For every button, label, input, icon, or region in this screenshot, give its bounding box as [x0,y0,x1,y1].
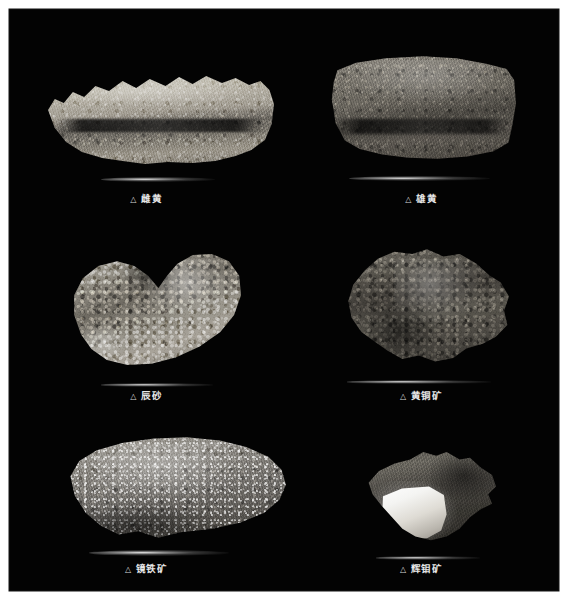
specimen-image-1[interactable] [48,66,274,166]
specimen-caption-6: △辉钼矿 [284,563,559,575]
specimen-shadow-band [358,301,440,355]
specimen-label-5: 镜铁矿 [136,563,168,574]
specimen-highlight [349,60,494,101]
specimen-caption-5: △镜铁矿 [9,563,284,575]
specimen-image-3[interactable] [69,249,241,371]
specimen-reflection-3 [101,383,213,387]
specimen-cell-2[interactable]: △雄黄 [284,9,559,209]
specimen-shadow-band [334,119,513,134]
specimen-highlight [76,325,128,362]
specimen-image-5[interactable] [66,433,286,541]
specimen-cell-4[interactable]: △黄铜矿 [284,200,559,400]
specimen-reflection-4 [347,380,491,384]
specimen-image-6[interactable] [366,450,496,546]
specimen-body [366,450,496,546]
specimen-shadow-band [57,119,265,132]
specimen-cell-6[interactable]: △辉钼矿 [284,391,559,591]
specimen-highlight [148,259,231,318]
specimen-image-2[interactable] [330,54,516,162]
triangle-marker-icon: △ [400,564,407,575]
specimen-reflection-1 [101,177,215,182]
plate-page: △雌黄 △雄黄 [0,0,570,604]
specimen-label-6: 辉钼矿 [411,563,443,574]
specimen-body [48,66,274,166]
specimen-cell-1[interactable]: △雌黄 [9,9,284,209]
specimen-reflection-2 [349,176,490,181]
specimen-shadow-band [66,504,220,541]
specimen-metallic-face [379,486,447,540]
specimen-body [330,54,516,162]
specimen-highlight [66,78,247,108]
triangle-marker-icon: △ [125,564,132,575]
specimen-cell-5[interactable]: △镜铁矿 [9,391,284,591]
specimen-image-4[interactable] [345,247,509,365]
specimen-body [345,247,509,365]
plate-background: △雌黄 △雄黄 [9,9,559,591]
specimen-body [66,433,286,541]
specimen-highlight [97,444,233,498]
specimen-reflection-6 [376,556,480,560]
specimen-reflection-5 [89,550,229,556]
specimen-body [69,249,241,371]
specimen-cell-3[interactable]: △辰砂 [9,200,284,400]
